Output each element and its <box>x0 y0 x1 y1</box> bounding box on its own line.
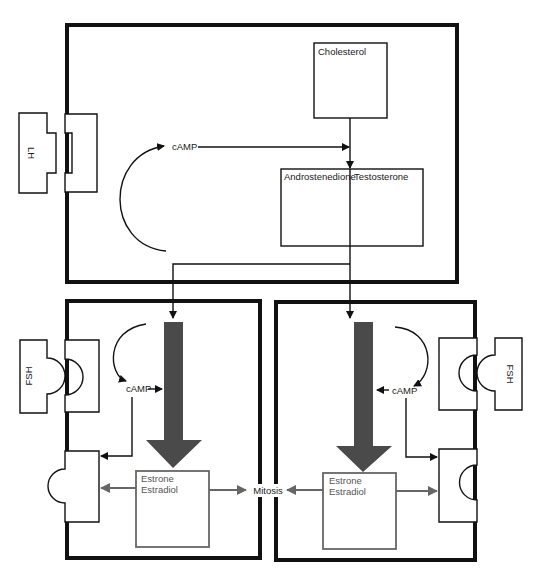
camp-label-left: cAMP <box>126 383 151 394</box>
fsh-label-right: FSH <box>505 365 516 384</box>
fsh-to-camp-arrow-left <box>113 324 146 381</box>
granulosa-cell-right: FSH cAMP Estrone Estradiol <box>276 302 522 560</box>
lh-to-camp-arrow <box>120 146 166 251</box>
mitosis-label: Mitosis <box>253 485 283 496</box>
camp-to-receptor-arrow-left <box>101 397 132 456</box>
cholesterol-label: Cholesterol <box>318 46 366 57</box>
lh-receptor <box>65 114 97 192</box>
estradiol-label-right: Estradiol <box>329 486 366 497</box>
testosterone-label: Testosterone <box>354 171 408 182</box>
theca-cell: LH cAMP Cholesterol Androstenedione Test… <box>19 25 457 282</box>
camp-to-receptor-arrow-right <box>406 398 437 457</box>
fsh-to-camp-arrow-right <box>395 327 428 386</box>
androstenedione-label: Androstenedione <box>284 171 356 182</box>
fsh-label-left: FSH <box>23 366 34 385</box>
estrogen-receptor-left <box>48 451 99 522</box>
theca-camp-label: cAMP <box>172 141 197 152</box>
steroidogenesis-diagram: LH cAMP Cholesterol Androstenedione Test… <box>0 0 543 581</box>
aromatization-arrow-right <box>336 322 392 472</box>
aromatization-arrow-left <box>146 322 202 468</box>
fsh-receptor-right <box>439 338 477 410</box>
estrone-label-left: Estrone <box>141 473 174 484</box>
granulosa-cell-left: FSH cAMP Estrone Estradiol <box>20 301 260 558</box>
estrone-label-right: Estrone <box>329 475 362 486</box>
estradiol-label-left: Estradiol <box>141 484 178 495</box>
lh-label: LH <box>26 147 37 159</box>
camp-label-right: cAMP <box>392 385 417 396</box>
fsh-receptor-left <box>65 340 99 412</box>
estrogen-receptor-right <box>439 449 477 522</box>
